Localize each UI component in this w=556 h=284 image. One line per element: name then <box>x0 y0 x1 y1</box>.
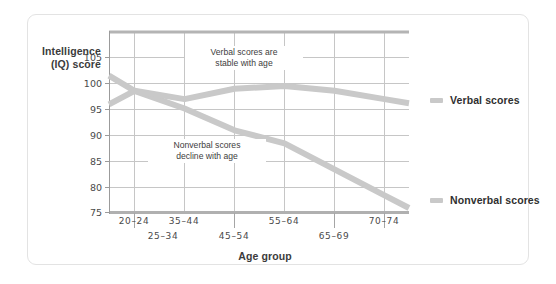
x-tick-label-70-74: 70–74 <box>355 216 413 226</box>
legend-item-nonverbal-scores[interactable]: Nonverbal scores <box>430 194 540 206</box>
legend-swatch-icon-verbal <box>430 98 443 103</box>
legend-item-verbal-scores[interactable]: Verbal scores <box>430 94 520 106</box>
y-tick-label-105: 105 <box>76 52 102 63</box>
annotation-verbal-stable: Verbal scores are stable with age <box>185 46 303 70</box>
x-tick-label-25-34: 25–34 <box>134 231 192 241</box>
y-tick-label-80: 80 <box>76 182 102 193</box>
chart-plot-area <box>0 0 556 284</box>
x-tick-label-65-69: 65–69 <box>305 231 363 241</box>
annotation-nonverbal-decline: Nonverbal scores decline with age <box>148 139 266 163</box>
y-tick-marks <box>105 58 109 213</box>
legend-label-verbal: Verbal scores <box>450 94 520 106</box>
y-tick-label-100: 100 <box>76 78 102 89</box>
x-tick-label-35-44: 35–44 <box>155 216 213 226</box>
y-tick-label-95: 95 <box>76 104 102 115</box>
annotation-verbal-line2: stable with age <box>189 58 299 69</box>
annotation-verbal-line1: Verbal scores are <box>189 47 299 58</box>
x-tick-label-45-54: 45–54 <box>205 231 263 241</box>
legend-label-nonverbal: Nonverbal scores <box>450 194 540 206</box>
x-axis-title: Age group <box>185 250 345 262</box>
chart-container: Intelligence (IQ) score 105 100 95 90 85… <box>0 0 556 284</box>
y-tick-label-75: 75 <box>76 207 102 218</box>
x-tick-label-55-64: 55–64 <box>255 216 313 226</box>
annotation-nonverbal-line1: Nonverbal scores <box>152 140 262 151</box>
annotation-nonverbal-line2: decline with age <box>152 151 262 162</box>
y-tick-label-90: 90 <box>76 130 102 141</box>
legend-swatch-icon-nonverbal <box>430 198 443 203</box>
y-tick-label-85: 85 <box>76 156 102 167</box>
